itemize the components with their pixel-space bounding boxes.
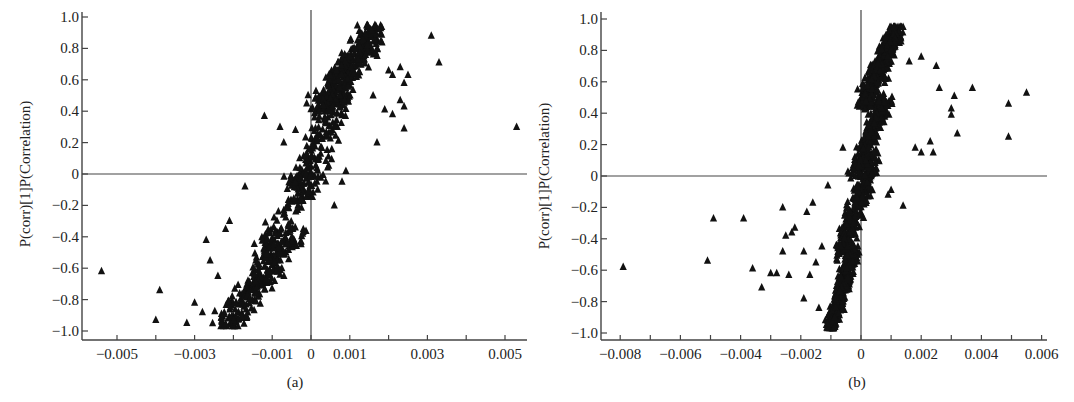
y-tick-label: 1.0 [579,11,598,27]
x-tick-label: 0 [307,346,315,362]
x-tick-label: 0 [857,346,865,362]
triangle-marker [740,214,747,222]
scatter-chart-b: −1.0−0.8−0.6−0.4−0.200.20.40.60.81.0−0.0… [536,10,1059,391]
triangle-marker [900,201,907,209]
triangle-marker [278,224,285,232]
triangle-marker [930,148,937,156]
y-axis-title: P(corr)[1]P(Correlation) [536,103,553,250]
triangle-marker [156,286,163,294]
triangle-marker [203,235,210,243]
y-tick-label: −0.8 [52,292,79,308]
triangle-marker [791,223,798,231]
triangle-marker [251,249,258,257]
triangle-marker [824,181,831,189]
y-tick-label: 0.4 [579,105,598,121]
triangle-marker [214,272,221,280]
triangle-marker [815,303,822,311]
triangle-marker [839,143,846,151]
triangle-marker [302,133,309,141]
x-tick-label: −0.004 [719,346,762,362]
triangle-marker [373,138,380,146]
triangle-marker [280,138,287,146]
triangle-marker [1023,88,1030,96]
triangle-marker [397,63,404,70]
x-tick-label: 0.003 [411,346,445,362]
triangle-marker [381,105,388,113]
triangle-marker [207,256,214,264]
triangle-marker [906,57,913,65]
triangle-marker [312,87,319,95]
y-tick-label: 0.2 [579,137,598,153]
x-tick-label: −0.005 [96,346,138,362]
y-tick-label: 0.8 [579,42,598,58]
x-tick-label: −0.006 [659,346,702,362]
x-tick-label: 0.001 [333,346,367,362]
triangle-marker [969,84,976,92]
triangle-marker [936,84,943,92]
panel-label: (a) [287,374,304,391]
triangle-marker [152,316,159,324]
y-tick-label: −0.6 [571,262,599,278]
triangle-marker [806,270,813,278]
x-tick-label: −0.008 [599,346,641,362]
x-tick-label: 0.004 [965,346,999,362]
y-tick-label: −1.0 [52,323,79,339]
triangle-marker [620,263,627,271]
y-tick-label: −0.8 [571,294,598,310]
y-tick-label: −1.0 [571,325,598,341]
triangle-marker [844,197,851,205]
x-tick-label: 0.005 [488,346,522,362]
x-tick-label: 0.006 [1025,346,1059,362]
x-tick-label: −0.002 [780,346,822,362]
panel-label: (b) [848,374,866,391]
triangle-marker [785,270,792,278]
triangle-marker [222,224,229,232]
triangle-marker [812,258,819,266]
triangle-marker [749,264,756,272]
triangle-marker [303,99,310,107]
triangle-marker [183,319,190,327]
triangle-marker [1005,132,1012,140]
triangle-marker [370,91,377,99]
triangle-marker [951,91,958,99]
triangle-marker [513,122,520,129]
triangle-marker [710,214,717,222]
triangle-marker [918,148,925,156]
triangle-marker [322,177,329,185]
triangle-marker [241,182,248,190]
triangle-marker [779,247,786,255]
figure-canvas: −1.0−0.8−0.6−0.4−0.200.20.40.60.81.0−0.0… [0,0,1074,402]
triangle-marker [331,201,338,209]
triangle-marker [954,129,961,137]
triangle-marker [773,269,780,277]
triangle-marker [782,231,789,239]
triangle-marker [261,111,268,119]
triangle-marker [912,143,919,151]
triangle-marker [251,240,258,248]
y-tick-label: 0 [591,168,599,184]
y-tick-label: 0 [72,166,80,182]
triangle-marker [226,217,233,225]
data-points [620,22,1031,331]
triangle-marker [800,294,807,302]
triangle-marker [704,256,711,264]
triangle-marker [211,307,218,315]
scatter-chart-a: −1.0−0.8−0.6−0.4−0.200.20.40.60.81.0−0.0… [17,9,527,391]
triangle-marker [191,298,198,306]
triangle-marker [918,52,925,60]
x-tick-label: −0.001 [251,346,293,362]
triangle-marker [401,124,408,132]
triangle-marker [328,145,335,153]
triangle-marker [927,137,934,145]
triangle-marker [292,126,299,134]
triangle-marker [933,62,940,70]
triangle-marker [809,198,816,206]
y-tick-label: −0.6 [52,260,80,276]
y-tick-label: 1.0 [60,9,79,25]
triangle-marker [767,269,774,277]
y-axis-title: P(corr)[1]P(Correlation) [17,101,34,248]
y-tick-label: −0.4 [52,229,80,245]
triangle-marker [397,96,404,104]
triangle-marker [262,218,269,226]
data-points [98,20,520,329]
